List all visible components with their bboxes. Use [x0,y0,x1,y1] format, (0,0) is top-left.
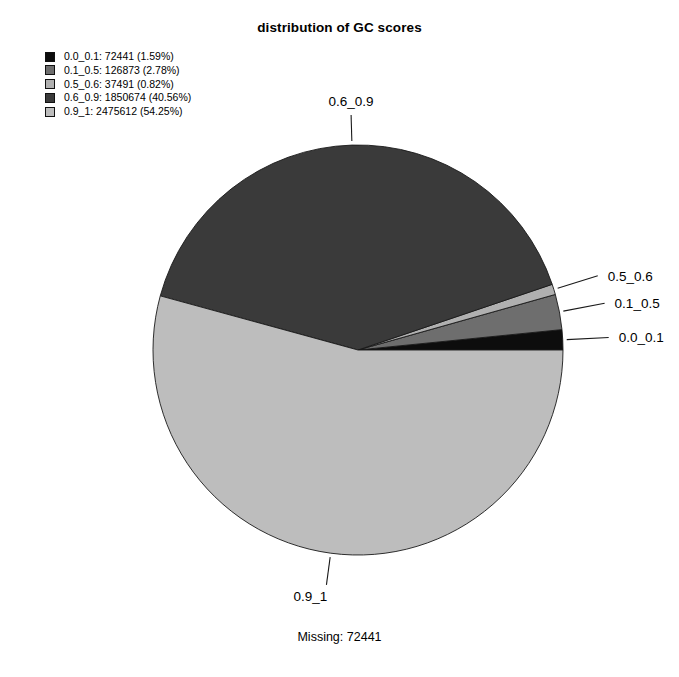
pie-label-0-1-0-5: 0.1_0.5 [615,296,660,311]
pie-label-0-0-0-1: 0.0_0.1 [619,330,664,345]
leader-line-0-0-0-1 [567,337,609,339]
leader-line-0-1-0-5 [563,303,604,311]
pie-svg: 0.0_0.10.1_0.50.5_0.60.6_0.90.9_1 [0,0,679,677]
leader-line-0-5-0-6 [558,276,598,288]
pie-slices [153,145,563,555]
leader-line-0-9-1 [326,557,330,585]
missing-count-note: Missing: 72441 [0,630,679,644]
leader-line-0-6-0-9 [351,115,352,141]
pie-label-0-5-0-6: 0.5_0.6 [608,269,653,284]
chart-canvas: distribution of GC scores 0.0_0.1: 72441… [0,0,679,677]
pie-label-0-9-1: 0.9_1 [294,589,328,604]
pie-chart: 0.0_0.10.1_0.50.5_0.60.6_0.90.9_1 [0,0,679,677]
pie-label-0-6-0-9: 0.6_0.9 [329,94,374,109]
